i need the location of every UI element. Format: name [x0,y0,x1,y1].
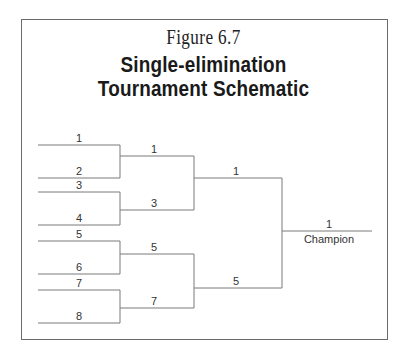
bracket-diagram: 1 2 3 4 5 6 7 8 1 3 5 7 1 5 1 Champion [0,0,407,357]
r1-label-7: 7 [76,277,82,289]
final-label: 1 [326,218,332,230]
r2-label-7: 7 [151,295,157,307]
r3-label-1: 1 [233,165,239,177]
r2-label-1: 1 [151,143,157,155]
r2-label-3: 3 [151,197,157,209]
r2-label-5: 5 [151,241,157,253]
champion-label: Champion [304,233,354,245]
r1-label-2: 2 [76,165,82,177]
r3-label-5: 5 [233,275,239,287]
r1-label-5: 5 [76,228,82,240]
r1-label-4: 4 [76,212,82,224]
r1-label-3: 3 [76,179,82,191]
r1-label-8: 8 [76,310,82,322]
r1-label-6: 6 [76,261,82,273]
r1-label-1: 1 [76,132,82,144]
